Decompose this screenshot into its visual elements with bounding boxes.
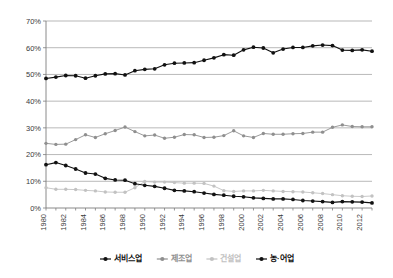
data-point <box>94 136 97 139</box>
data-point <box>74 74 78 78</box>
data-point <box>173 181 176 184</box>
x-axis-tick-label: 1988 <box>118 214 127 231</box>
data-point <box>44 163 48 167</box>
data-point <box>54 188 57 191</box>
data-point <box>261 196 265 200</box>
data-point <box>64 188 67 191</box>
data-point <box>242 134 245 137</box>
data-point <box>370 125 373 128</box>
data-point <box>143 67 147 71</box>
data-point <box>123 73 127 77</box>
data-point <box>331 200 335 204</box>
data-point <box>133 130 136 133</box>
data-point <box>232 194 236 198</box>
data-point <box>232 53 236 57</box>
data-point <box>232 190 235 193</box>
data-point <box>321 200 325 204</box>
data-point <box>103 176 107 180</box>
legend-marker-dot <box>210 257 214 261</box>
data-point <box>281 197 285 201</box>
data-point <box>74 138 77 141</box>
data-point <box>212 136 215 139</box>
data-point <box>360 195 363 198</box>
data-point <box>242 48 246 52</box>
data-point <box>163 186 167 190</box>
line-chart: 0%10%20%30%40%50%60%70% 1980198219841986… <box>0 0 393 278</box>
data-point <box>331 44 335 48</box>
legend-label: 서비스업 <box>114 253 142 263</box>
data-point <box>94 189 97 192</box>
legend-item-2[interactable]: 제조업 <box>157 253 192 263</box>
y-axis-tick-label: 10% <box>26 177 41 186</box>
data-point <box>341 123 344 126</box>
data-point <box>133 182 137 186</box>
data-point <box>163 137 166 140</box>
legend-item-1[interactable]: 서비스업 <box>100 253 142 263</box>
data-point <box>44 142 47 145</box>
data-point <box>192 190 196 194</box>
data-point <box>311 191 314 194</box>
data-point <box>340 200 344 204</box>
x-axis-tick-label: 2006 <box>296 214 305 231</box>
data-point <box>113 191 116 194</box>
data-point <box>183 181 186 184</box>
data-point <box>54 161 58 165</box>
data-point <box>272 133 275 136</box>
data-point <box>153 184 157 188</box>
data-point <box>93 74 97 78</box>
data-point <box>291 190 294 193</box>
data-point <box>133 69 137 73</box>
data-point <box>212 192 216 196</box>
data-point <box>360 125 363 128</box>
data-point <box>84 133 87 136</box>
data-point <box>340 48 344 52</box>
data-point <box>301 199 305 203</box>
legend-label: 건설업 <box>220 253 241 263</box>
data-point <box>222 134 225 137</box>
data-point <box>192 181 195 184</box>
data-point <box>232 129 235 132</box>
data-point <box>123 191 126 194</box>
data-point <box>44 186 47 189</box>
data-point <box>331 193 334 196</box>
data-point <box>123 125 126 128</box>
data-point <box>301 190 304 193</box>
data-point <box>113 72 117 76</box>
data-point <box>370 194 373 197</box>
axes-group <box>43 21 372 208</box>
y-axis-tick-label: 30% <box>26 124 41 133</box>
data-point <box>113 178 117 182</box>
data-point <box>64 74 68 78</box>
data-point <box>321 130 324 133</box>
data-point <box>242 189 245 192</box>
data-point <box>54 75 58 79</box>
x-axis-tick-label: 1996 <box>197 214 206 231</box>
data-point <box>202 136 205 139</box>
data-point <box>74 167 78 171</box>
data-point <box>291 46 295 50</box>
data-point <box>301 46 305 50</box>
data-point <box>351 125 354 128</box>
data-point <box>103 72 107 76</box>
data-point <box>252 136 255 139</box>
legend-item-3[interactable]: 건설업 <box>206 253 241 263</box>
x-axis-tick-labels: 1980198219841986198819901992199419961998… <box>39 214 364 231</box>
x-axis-tick-label: 1990 <box>138 214 147 231</box>
data-point <box>192 133 195 136</box>
data-point <box>173 188 177 192</box>
legend-item-4[interactable]: 농·어업 <box>256 253 294 263</box>
x-axis-tick-label: 1982 <box>59 214 68 231</box>
data-point <box>252 196 256 200</box>
data-point <box>182 61 186 65</box>
data-point <box>271 197 275 201</box>
data-point <box>360 200 364 204</box>
data-point <box>183 133 186 136</box>
data-point <box>261 46 265 50</box>
y-axis-tick-label: 40% <box>26 97 41 106</box>
data-point <box>133 186 136 189</box>
y-axis-tick-labels: 0%10%20%30%40%50%60%70% <box>26 17 41 213</box>
data-point <box>311 44 315 48</box>
legend-marker-dot <box>103 257 107 261</box>
data-point <box>350 48 354 52</box>
series-layer <box>44 43 374 205</box>
